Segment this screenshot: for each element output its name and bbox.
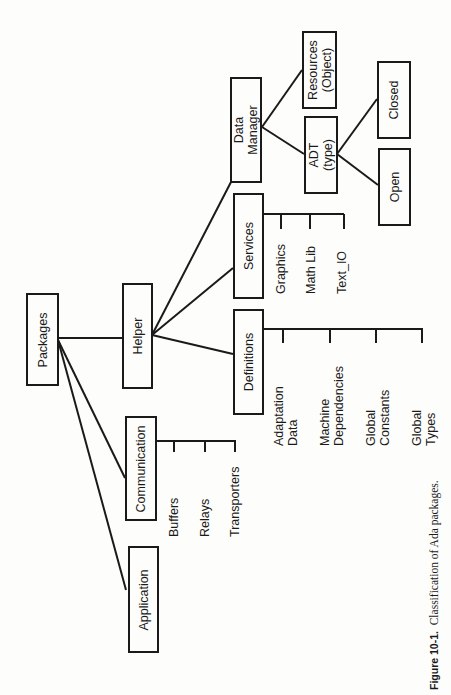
node-services: Services [233,193,264,299]
node-helper: Helper [122,283,153,389]
node-adt: ADT (type) [304,116,338,194]
node-label: Resources (Object) [306,40,334,100]
leaf-relays: Relays [198,499,212,537]
leaf-math-lib: Math Lib [304,246,318,294]
caption-text: Classification of Ada packages. [428,480,440,625]
node-closed: Closed [377,61,411,139]
node-label: Services [242,222,256,270]
node-label: Application [137,569,151,630]
node-communication: Communication [125,416,157,521]
leaf-adaptation-data: Adaptation Data [272,386,300,446]
node-label: Definitions [242,333,256,391]
leaf-global-types: Global Types [410,410,438,446]
leaf-graphics: Graphics [274,244,288,294]
caption-label: Figure 10-1. [428,631,440,690]
node-data-manager: Data Manager [230,77,262,183]
node-label: Open [388,172,402,203]
node-label: Closed [387,81,401,120]
node-label: Communication [134,425,148,512]
leaf-transporters: Transporters [228,467,242,537]
node-label: Packages [36,312,50,367]
node-label: ADT (type) [307,139,335,171]
node-packages: Packages [26,293,59,386]
node-open: Open [378,148,411,226]
leaf-text-io: Text_IO [335,251,349,294]
figure-caption: Figure 10-1. Classification of Ada packa… [428,480,440,690]
node-application: Application [128,546,159,653]
leaf-machine-dependencies: Machine Dependencies [318,366,346,446]
node-definitions: Definitions [233,309,264,415]
leaf-buffers: Buffers [167,498,181,537]
leaf-global-constants: Global Constants [364,390,392,446]
node-label: Helper [131,318,145,355]
node-resources: Resources (Object) [302,31,337,109]
node-label: Data Manager [232,105,260,154]
